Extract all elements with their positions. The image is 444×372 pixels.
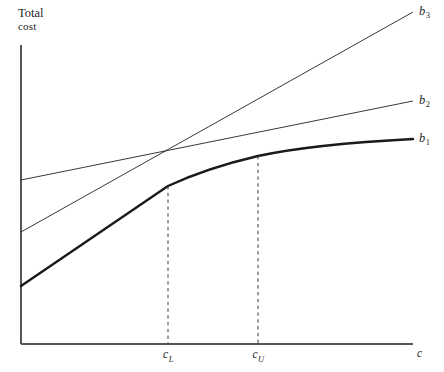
- x-tick-label-cL-text: c: [163, 348, 168, 360]
- y-axis-title: Total cost: [18, 6, 44, 32]
- x-tick-label-cL: cL: [163, 348, 173, 361]
- series-label-b1-text: b: [419, 131, 425, 145]
- figure-canvas: Total cost b3 b2 b1 cL cU c: [0, 0, 444, 372]
- series-label-b2-subscript: 2: [426, 99, 430, 109]
- series-label-b1-subscript: 1: [426, 137, 430, 147]
- series-label-b3: b3: [419, 4, 430, 18]
- y-axis-title-line1: Total: [18, 6, 44, 20]
- series-line-b3: [21, 12, 413, 232]
- x-tick-label-cU: cU: [252, 348, 263, 361]
- series-curve-b1: [21, 139, 413, 286]
- series-label-b2: b2: [419, 93, 430, 107]
- series-label-b1: b1: [419, 131, 430, 145]
- plot-area: [0, 0, 444, 372]
- series-label-b3-subscript: 3: [426, 10, 430, 20]
- series-label-b3-text: b: [419, 4, 425, 18]
- x-tick-label-cL-subscript: L: [169, 354, 174, 364]
- x-axis-title: c: [417, 347, 422, 360]
- y-axis-title-line2: cost: [18, 20, 44, 32]
- series-label-b2-text: b: [419, 93, 425, 107]
- x-tick-label-cU-subscript: U: [258, 354, 264, 364]
- x-tick-label-cU-text: c: [252, 348, 257, 360]
